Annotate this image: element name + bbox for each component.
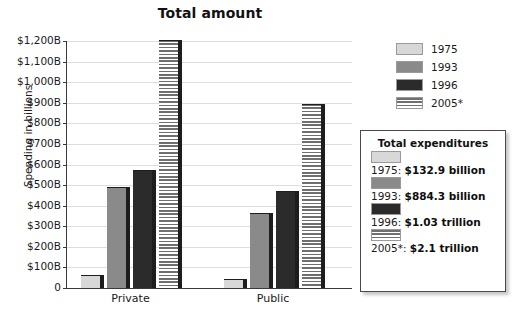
expenditure-text: 1975: $132.9 billion (371, 164, 505, 176)
legend-item-1975[interactable]: 1975 (396, 40, 506, 58)
legend-swatch (396, 97, 423, 109)
bar-fill (133, 170, 152, 288)
expenditure-swatch (371, 203, 401, 215)
expenditure-row-1993: 1993: $884.3 billion (361, 177, 505, 202)
y-axis-tick-label: $700B (0, 137, 61, 149)
bar-top-edge (159, 40, 182, 41)
chart-legend: 1975199319962005* (396, 40, 506, 112)
expenditure-text: 1996: $1.03 trillion (371, 216, 505, 228)
bar-side-face (100, 275, 104, 288)
y-axis-tick-mark (63, 82, 67, 83)
legend-swatch (396, 61, 423, 73)
y-axis-tick-label: $1,100B (0, 55, 61, 67)
legend-swatch (396, 43, 423, 55)
y-axis-tick-label: 0 (0, 281, 61, 293)
y-axis-tick-label: $400B (0, 199, 61, 211)
bar-fill (81, 275, 100, 288)
expenditure-value: $132.9 billion (405, 164, 486, 176)
bar-public-1975[interactable] (224, 279, 247, 288)
gridline (67, 41, 352, 42)
y-axis-tick-label: $800B (0, 116, 61, 128)
expenditure-year: 1996: (371, 216, 405, 228)
y-axis-tick-mark (63, 206, 67, 207)
expenditure-year: 1993: (371, 190, 405, 202)
bar-fill (250, 213, 269, 288)
y-axis-tick-mark (63, 62, 67, 63)
expenditure-text: 1993: $884.3 billion (371, 190, 505, 202)
y-axis-tick-mark (63, 288, 67, 289)
bar-top-edge (107, 187, 130, 188)
x-axis-label-private: Private (71, 292, 191, 305)
bar-top-edge (250, 213, 273, 214)
bar-top-edge (302, 104, 325, 105)
gridline (67, 62, 352, 63)
y-axis-tick-mark (63, 226, 67, 227)
expenditure-swatch (371, 177, 401, 189)
bar-top-edge (133, 170, 156, 171)
y-axis-tick-mark (63, 185, 67, 186)
bar-side-face (178, 40, 182, 288)
expenditure-row-1975: 1975: $132.9 billion (361, 151, 505, 176)
gridline (67, 82, 352, 83)
bar-fill (224, 279, 243, 288)
y-axis-tick-mark (63, 103, 67, 104)
y-axis-tick-label: $600B (0, 158, 61, 170)
expenditure-row-1996: 1996: $1.03 trillion (361, 203, 505, 228)
y-axis-tick-label: $200B (0, 240, 61, 252)
legend-item-1993[interactable]: 1993 (396, 58, 506, 76)
bar-side-face (243, 279, 247, 288)
x-axis-label-public: Public (213, 292, 333, 305)
expenditure-value: $884.3 billion (405, 190, 486, 202)
y-axis-tick-mark (63, 267, 67, 268)
total-expenditures-title: Total expenditures (361, 137, 505, 149)
bar-side-face (126, 187, 130, 288)
y-axis-tick-label: $900B (0, 96, 61, 108)
chart-title: Total amount (60, 5, 360, 21)
bar-top-edge (276, 191, 299, 192)
bar-public-2005[interactable] (302, 104, 325, 288)
y-axis-tick-mark (63, 247, 67, 248)
legend-label: 2005* (431, 97, 463, 109)
total-expenditures-box: Total expenditures 1975: $132.9 billion1… (360, 130, 506, 292)
y-axis-tick-mark (63, 123, 67, 124)
legend-label: 1996 (431, 79, 458, 91)
legend-label: 1975 (431, 43, 458, 55)
bar-side-face (269, 213, 273, 288)
y-axis-tick-label: $100B (0, 260, 61, 272)
y-axis-tick-mark (63, 41, 67, 42)
expenditure-swatch (371, 151, 401, 163)
bar-private-1996[interactable] (133, 170, 156, 288)
y-axis-tick-mark (63, 165, 67, 166)
expenditure-value: $2.1 trillion (410, 242, 479, 254)
expenditure-row-2005: 2005*: $2.1 trillion (361, 229, 505, 254)
bar-side-face (152, 170, 156, 288)
y-axis-tick-label: $1,200B (0, 34, 61, 46)
bar-fill (302, 104, 321, 288)
expenditure-value: $1.03 trillion (405, 216, 481, 228)
legend-item-1996[interactable]: 1996 (396, 76, 506, 94)
bar-public-1996[interactable] (276, 191, 299, 288)
bar-private-2005[interactable] (159, 40, 182, 288)
expenditure-year: 1975: (371, 164, 405, 176)
y-axis-tick-label: $1,000B (0, 75, 61, 87)
plot-area (66, 41, 352, 289)
legend-item-2005[interactable]: 2005* (396, 94, 506, 112)
bar-side-face (295, 191, 299, 288)
y-axis-tick-label: $300B (0, 219, 61, 231)
legend-swatch (396, 79, 423, 91)
bar-public-1993[interactable] (250, 213, 273, 288)
bar-top-edge (224, 279, 247, 280)
bar-side-face (321, 104, 325, 288)
bar-fill (159, 40, 178, 288)
expenditure-text: 2005*: $2.1 trillion (371, 242, 505, 254)
bar-fill (276, 191, 295, 288)
expenditure-swatch (371, 229, 401, 241)
legend-label: 1993 (431, 61, 458, 73)
bar-fill (107, 187, 126, 288)
total-expenditures-rows: 1975: $132.9 billion1993: $884.3 billion… (361, 151, 505, 254)
y-axis-tick-label: $500B (0, 178, 61, 190)
bar-private-1993[interactable] (107, 187, 130, 288)
bar-private-1975[interactable] (81, 275, 104, 288)
y-axis-tick-mark (63, 144, 67, 145)
expenditure-year: 2005*: (371, 242, 410, 254)
